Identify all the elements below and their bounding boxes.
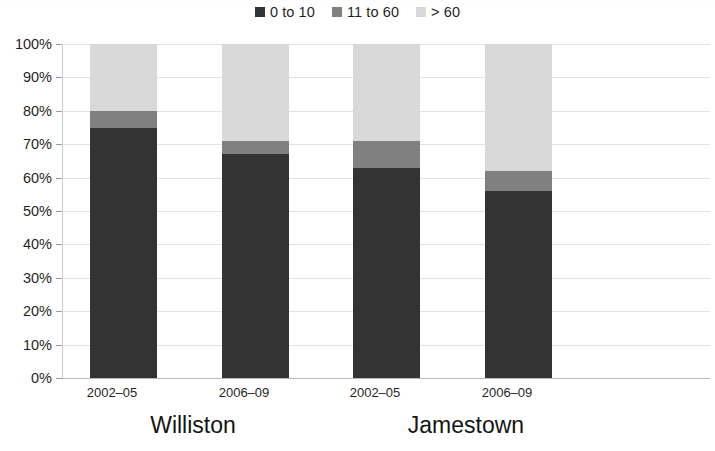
legend-item-gt-60: > 60 bbox=[416, 4, 460, 20]
bar-segment-11-to-60 bbox=[485, 171, 552, 191]
y-axis-tick bbox=[56, 178, 62, 179]
bar-segment-gt-60 bbox=[90, 44, 157, 111]
y-tick-label: 20% bbox=[0, 303, 52, 319]
bar-segment-0-to-10 bbox=[90, 128, 157, 379]
y-tick-label: 100% bbox=[0, 36, 52, 52]
y-axis-tick bbox=[56, 278, 62, 279]
y-tick-label: 70% bbox=[0, 136, 52, 152]
x-tick-label: 2006–09 bbox=[452, 385, 562, 400]
y-tick-label: 40% bbox=[0, 236, 52, 252]
bar-segment-gt-60 bbox=[485, 44, 552, 171]
x-tick-label: 2006–09 bbox=[189, 385, 299, 400]
y-axis-tick bbox=[56, 144, 62, 145]
y-axis-tick bbox=[56, 77, 62, 78]
y-axis-tick bbox=[56, 378, 62, 379]
x-tick-label: 2002–05 bbox=[320, 385, 430, 400]
y-tick-label: 80% bbox=[0, 103, 52, 119]
bar-segment-0-to-10 bbox=[485, 191, 552, 378]
y-axis-tick bbox=[56, 44, 62, 45]
y-tick-label: 0% bbox=[0, 370, 52, 386]
y-tick-label: 10% bbox=[0, 337, 52, 353]
y-axis-tick bbox=[56, 345, 62, 346]
bar-williston-2002-05[interactable] bbox=[90, 44, 157, 378]
chart-legend: 0 to 10 11 to 60 > 60 bbox=[0, 4, 715, 20]
legend-label: 0 to 10 bbox=[270, 4, 315, 20]
stacked-bar-chart: 0 to 10 11 to 60 > 60 100% 90% 80% 70% 6… bbox=[0, 0, 715, 451]
group-label-jamestown: Jamestown bbox=[366, 412, 566, 439]
legend-swatch-icon bbox=[255, 7, 265, 17]
y-axis-tick bbox=[56, 211, 62, 212]
y-axis-tick bbox=[56, 311, 62, 312]
legend-item-0-to-10: 0 to 10 bbox=[255, 4, 315, 20]
bar-jamestown-2002-05[interactable] bbox=[353, 44, 420, 378]
bar-segment-11-to-60 bbox=[353, 141, 420, 168]
y-tick-label: 30% bbox=[0, 270, 52, 286]
x-axis-line bbox=[62, 378, 710, 379]
bar-jamestown-2006-09[interactable] bbox=[485, 44, 552, 378]
legend-label: > 60 bbox=[431, 4, 460, 20]
legend-swatch-icon bbox=[332, 7, 342, 17]
bar-segment-0-to-10 bbox=[353, 168, 420, 378]
y-tick-label: 60% bbox=[0, 170, 52, 186]
legend-label: 11 to 60 bbox=[347, 4, 399, 20]
bar-segment-11-to-60 bbox=[222, 141, 289, 154]
y-axis-tick bbox=[56, 244, 62, 245]
bar-segment-0-to-10 bbox=[222, 154, 289, 378]
legend-swatch-icon bbox=[416, 7, 426, 17]
legend-item-11-to-60: 11 to 60 bbox=[332, 4, 399, 20]
plot-area bbox=[62, 44, 710, 378]
x-tick-label: 2002–05 bbox=[57, 385, 167, 400]
group-label-williston: Williston bbox=[103, 412, 283, 439]
bar-segment-11-to-60 bbox=[90, 111, 157, 128]
y-tick-label: 50% bbox=[0, 203, 52, 219]
y-axis-tick bbox=[56, 111, 62, 112]
y-tick-label: 90% bbox=[0, 69, 52, 85]
bar-segment-gt-60 bbox=[222, 44, 289, 141]
bar-williston-2006-09[interactable] bbox=[222, 44, 289, 378]
bar-segment-gt-60 bbox=[353, 44, 420, 141]
